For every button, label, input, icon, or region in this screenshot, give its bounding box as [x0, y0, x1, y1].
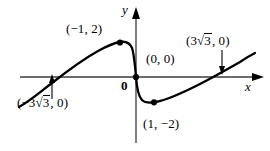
label-x-intercept-left: (−3√3, 0): [17, 95, 68, 110]
left-intercept-pointer-head: [49, 74, 55, 83]
point-marker-local-min: [151, 99, 157, 105]
radical-sign-icon: √: [35, 96, 42, 110]
y-axis-label: y: [122, 3, 128, 16]
plot-canvas: [0, 0, 270, 151]
label-local-max: (−1, 2): [66, 22, 102, 35]
sqrt-group-right: √3: [197, 33, 212, 48]
label-local-min: (1, −2): [143, 117, 179, 130]
sqrt-group-left: √3: [35, 95, 50, 110]
x-intercept-right-prefix: (3: [186, 33, 197, 48]
x-intercept-left-suffix: , 0): [50, 95, 68, 110]
radical-sign-icon: √: [197, 34, 204, 48]
point-marker-local-max: [117, 39, 123, 45]
y-axis-arrowhead: [132, 7, 140, 19]
label-origin-point: (0, 0): [146, 52, 175, 65]
x-intercept-right-radicand: 3: [204, 33, 212, 48]
point-marker-origin: [133, 74, 139, 80]
x-intercept-left-radicand: 3: [43, 95, 51, 110]
x-intercept-left-prefix: (−3: [17, 95, 35, 110]
x-axis-label: x: [245, 80, 251, 93]
origin-tick-label: 0: [121, 79, 128, 92]
x-axis-arrowhead: [252, 73, 264, 81]
label-x-intercept-right: (3√3, 0): [186, 33, 230, 48]
x-intercept-right-suffix: , 0): [212, 33, 230, 48]
graph-figure: (−1, 2) (0, 0) (1, −2) (3√3, 0) (−3√3, 0…: [0, 0, 270, 151]
